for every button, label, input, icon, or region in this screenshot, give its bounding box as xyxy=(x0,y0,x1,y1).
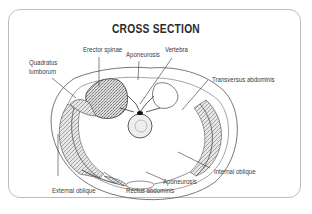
label-aponeurosis-top: Aponeurosis xyxy=(126,50,160,59)
label-quadratus-lumborum-line1: Quadratus xyxy=(29,58,57,67)
label-transversus-abdominis: Transversus abdominis xyxy=(212,75,275,84)
label-rectus-abdominis: Rectus abdominis xyxy=(126,186,174,195)
label-external-oblique: External oblique xyxy=(52,186,96,195)
label-quadratus-lumborum-line2: lumborum xyxy=(29,67,56,76)
label-erector-spinae: Erector spinae xyxy=(83,45,122,54)
label-vertebra: Vertebra xyxy=(165,45,188,54)
label-aponeurosis-bottom: Aponeurosis xyxy=(163,177,197,186)
label-internal-oblique: Internal oblique xyxy=(214,167,256,176)
right-oblique-muscles xyxy=(190,100,222,176)
right-back-mass xyxy=(153,83,178,109)
cross-section-illustration xyxy=(0,0,312,214)
